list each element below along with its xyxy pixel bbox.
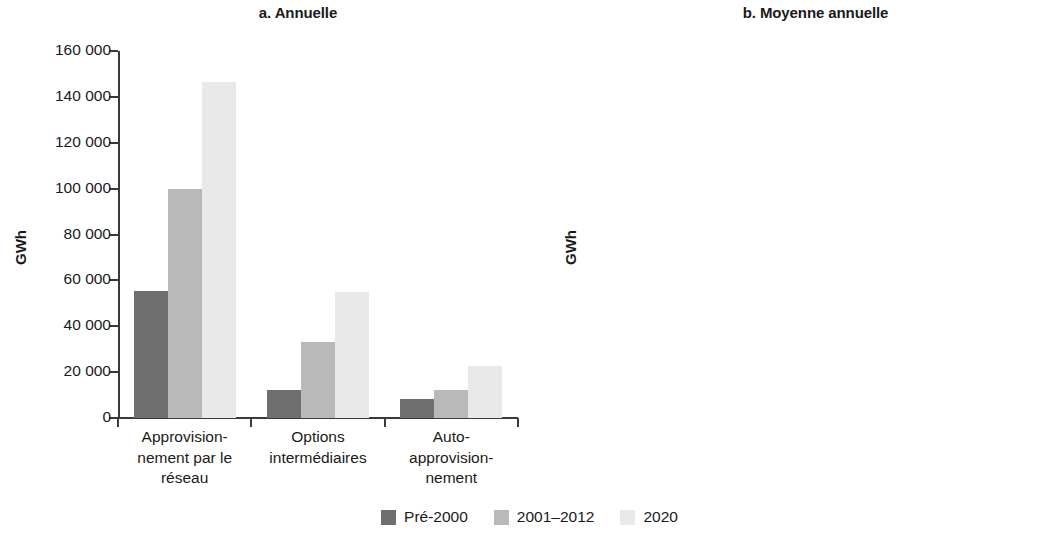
legend-swatch-icon [494,510,509,525]
x-axis-category-line: Approvision- [119,427,250,448]
x-axis-category-line: Options [252,427,383,448]
chart-b-y-axis-title: GWh [562,230,579,265]
y-tick-label: 40 000 [64,316,111,334]
legend-swatch-icon [620,510,635,525]
x-axis-category-label: Approvision-nement par leréseau [118,427,251,489]
x-axis-category-line: nement [386,468,517,489]
bar [267,390,301,418]
x-tick-mark [517,418,519,427]
chart-a-x-labels: Approvision-nement par leréseauOptionsin… [118,427,518,489]
legend-item: 2020 [620,508,677,526]
legend-label: 2001–2012 [517,508,595,526]
bar [335,292,369,418]
x-axis-category-line [252,468,383,489]
x-axis-category-line: nement par le [119,448,250,469]
chart-a-plot-area: 020 00040 00060 00080 000100 000120 0001… [118,51,518,418]
y-tick-label: 160 000 [55,41,111,59]
chart-panel-a: a. Annuelle GWh 020 00040 00060 00080 00… [0,0,530,510]
bar [168,189,202,418]
x-tick-mark [117,418,119,427]
bar-group [118,51,251,418]
legend-swatch-icon [381,510,396,525]
legend-label: 2020 [643,508,677,526]
bar [434,390,468,418]
chart-a-y-axis-title: GWh [12,230,29,265]
x-axis-category-line: intermédiaires [252,448,383,469]
x-axis-category-line: réseau [119,468,250,489]
x-axis-category-label: Optionsintermédiaires [251,427,384,489]
bar [202,82,236,418]
bar-group [251,51,384,418]
bar-group [385,51,518,418]
bar [400,399,434,418]
y-tick-label: 60 000 [64,270,111,288]
chart-b-title: b. Moyenne annuelle [530,4,1059,21]
y-tick-label: 120 000 [55,133,111,151]
chart-panel-b: b. Moyenne annuelle GWh 02004006008001 0… [530,0,1059,510]
x-tick-mark [250,418,252,427]
x-axis-category-label: Auto-approvision-nement [385,427,518,489]
bar [468,366,502,418]
figure-container: a. Annuelle GWh 020 00040 00060 00080 00… [0,0,1059,543]
y-tick-label: 100 000 [55,179,111,197]
y-tick-label: 0 [102,408,111,426]
legend-item: 2001–2012 [494,508,595,526]
y-tick-label: 140 000 [55,87,111,105]
x-axis-category-line: approvision- [386,448,517,469]
chart-legend: Pré-20002001–20122020 [0,508,1059,526]
x-axis-category-line: Auto- [386,427,517,448]
legend-item: Pré-2000 [381,508,468,526]
chart-a-title: a. Annuelle [0,4,530,21]
x-tick-mark [384,418,386,427]
legend-label: Pré-2000 [404,508,468,526]
bar [134,291,168,418]
y-tick-label: 20 000 [64,362,111,380]
bar [301,342,335,418]
y-tick-label: 80 000 [64,225,111,243]
chart-a-bar-groups [118,51,518,418]
